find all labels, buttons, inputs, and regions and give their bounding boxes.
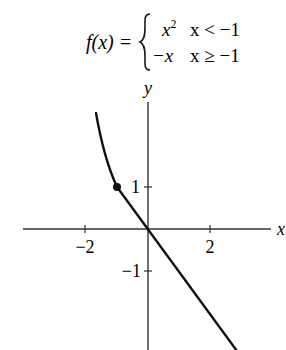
function-plot: −2 2 1 −1 x y	[0, 0, 286, 350]
y-tick-label-1: 1	[131, 177, 140, 197]
y-axis-label: y	[142, 78, 152, 98]
y-tick-label-neg1: −1	[122, 261, 141, 281]
closed-point-marker	[113, 183, 121, 191]
x-tick-label-neg2: −2	[75, 237, 94, 257]
x-axis-label: x	[276, 219, 285, 239]
x-tick-label-2: 2	[206, 237, 215, 257]
parabola-segment	[96, 113, 117, 187]
